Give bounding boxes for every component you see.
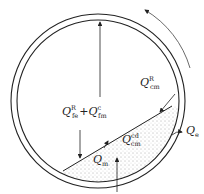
label-wall-to-solid-conduction: Qcdcm (122, 132, 141, 148)
label-wall-to-solid-radiation: QRcm (140, 75, 160, 91)
label-shell-loss: Qe (186, 124, 199, 139)
label-gas-to-wall: QRfe+Qcfm (62, 104, 107, 120)
arrow-qe-icon (172, 132, 182, 135)
kiln-diagram: QRfe+Qcfm QRcm Qcdcm Qm Qe (0, 0, 204, 194)
